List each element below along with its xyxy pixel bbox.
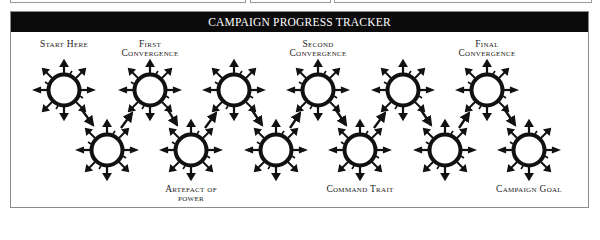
spiked-circle-icon xyxy=(458,61,516,119)
top-row-nodes xyxy=(35,61,516,119)
label-campaign-goal: Campaign Goal xyxy=(496,185,562,194)
spiked-circle-icon xyxy=(35,61,93,119)
label-second-convergence: Second Convergence xyxy=(289,40,346,58)
spiked-circle-icon xyxy=(205,61,263,119)
spiked-circle-icon xyxy=(331,121,389,179)
spiked-circle-icon xyxy=(247,121,305,179)
bottom-row-nodes xyxy=(78,121,558,179)
spiked-circle-icon xyxy=(374,61,432,119)
connector-arrows xyxy=(82,110,515,128)
spiked-circle-icon xyxy=(416,121,474,179)
label-artefact-of-power: Artefact of power xyxy=(165,185,217,203)
spiked-circle-icon xyxy=(78,121,136,179)
label-first-convergence: First Convergence xyxy=(121,40,178,58)
spiked-circle-icon xyxy=(121,61,179,119)
spiked-circle-icon xyxy=(500,121,558,179)
spiked-circle-icon xyxy=(162,121,220,179)
spiked-circle-icon xyxy=(289,61,347,119)
label-command-trait: Command Trait xyxy=(326,185,393,194)
label-final-convergence: Final Convergence xyxy=(458,40,515,58)
label-start-here: Start Here xyxy=(40,40,88,49)
